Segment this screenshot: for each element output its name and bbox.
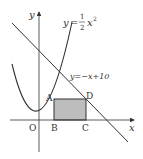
svg-text:=: =: [70, 17, 78, 28]
y-axis-label: y: [28, 9, 35, 20]
parabola-label: y = 1 2 x 2: [62, 13, 97, 32]
point-b-label: B: [51, 123, 58, 133]
rectangle-abcd: [54, 99, 86, 120]
x-axis-label: x: [129, 122, 135, 133]
point-a-label: A: [45, 93, 53, 103]
parabola-curve: [12, 22, 72, 111]
svg-text:1: 1: [80, 13, 84, 21]
svg-text:y: y: [62, 17, 69, 28]
svg-text:2: 2: [93, 15, 97, 22]
svg-text:2: 2: [80, 24, 84, 32]
line-label: y=−x+10: [69, 72, 109, 81]
coordinate-diagram: y x O y = 1 2 x 2 y=−x+10 A D B C: [0, 0, 143, 159]
origin-label: O: [29, 123, 36, 133]
point-c-label: C: [82, 123, 89, 133]
point-d-label: D: [86, 91, 93, 101]
